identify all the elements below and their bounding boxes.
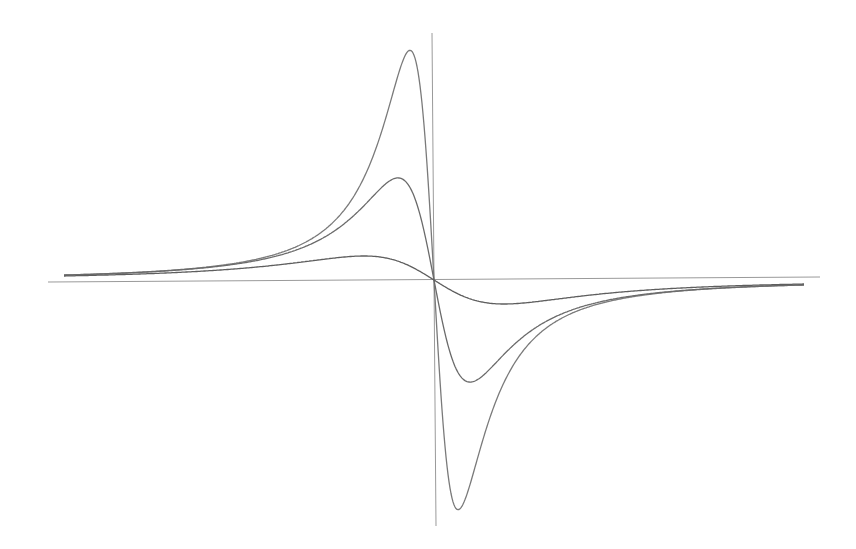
curve-group	[64, 50, 804, 509]
chart-plot-area	[0, 0, 856, 549]
